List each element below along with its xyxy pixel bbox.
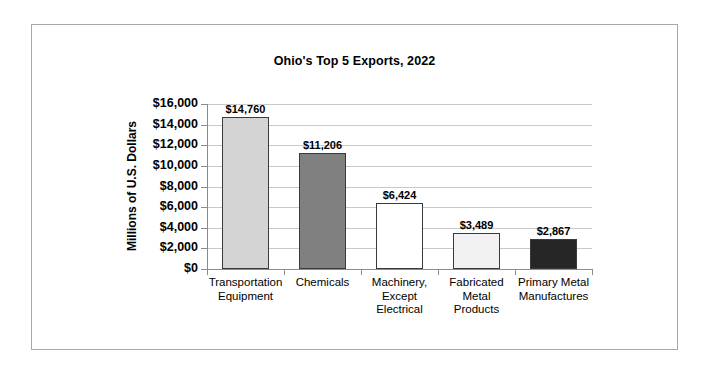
chart-title: Ohio's Top 5 Exports, 2022 (0, 54, 709, 68)
bar (530, 239, 577, 269)
bar (299, 153, 346, 269)
y-axis-tick (201, 207, 207, 208)
category-label-line: Equipment (207, 290, 284, 304)
x-axis-line (207, 269, 593, 270)
category-label-line: Electrical (361, 303, 438, 317)
category-label-line: Machinery, (361, 276, 438, 290)
x-axis-tick (592, 270, 593, 275)
x-axis-tick (207, 270, 208, 275)
bar-value-label: $6,424 (360, 189, 440, 201)
y-axis-tick-label: $0 (140, 261, 198, 275)
y-axis-tick (201, 166, 207, 167)
category-label-line: Manufactures (515, 290, 592, 304)
x-axis-category-label: TransportationEquipment (207, 276, 284, 303)
category-label-line: Fabricated (438, 276, 515, 290)
bar-value-label: $3,489 (437, 219, 517, 231)
category-label-line: Primary Metal (515, 276, 592, 290)
bar (376, 203, 423, 269)
x-axis-tick (361, 270, 362, 275)
y-axis-tick-label: $2,000 (140, 240, 198, 254)
y-axis-tick (201, 187, 207, 188)
bar (453, 233, 500, 269)
y-axis-tick-label: $16,000 (140, 96, 198, 110)
y-axis-line (207, 104, 208, 270)
x-axis-category-label: Chemicals (284, 276, 361, 290)
category-label-line: Metal (438, 290, 515, 304)
y-axis-tick-label: $10,000 (140, 158, 198, 172)
x-axis-tick (284, 270, 285, 275)
x-axis-category-label: FabricatedMetalProducts (438, 276, 515, 317)
y-axis-tick-label: $4,000 (140, 220, 198, 234)
y-axis-tick (201, 228, 207, 229)
y-axis-title: Millions of U.S. Dollars (125, 121, 139, 251)
x-axis-category-label: Machinery,ExceptElectrical (361, 276, 438, 317)
bar-value-label: $11,206 (283, 139, 363, 151)
y-axis-tick-label: $14,000 (140, 117, 198, 131)
chart-figure: Ohio's Top 5 Exports, 2022 Millions of U… (0, 0, 709, 373)
plot-area (207, 104, 592, 269)
x-axis-tick (438, 270, 439, 275)
x-axis-tick (515, 270, 516, 275)
category-label-line: Products (438, 303, 515, 317)
y-axis-tick-label: $12,000 (140, 137, 198, 151)
y-axis-tick (201, 248, 207, 249)
bar (222, 117, 269, 269)
category-label-line: Transportation (207, 276, 284, 290)
y-axis-tick (201, 125, 207, 126)
y-axis-tick-label: $6,000 (140, 199, 198, 213)
x-axis-category-label: Primary MetalManufactures (515, 276, 592, 303)
category-label-line: Except (361, 290, 438, 304)
bar-value-label: $2,867 (514, 225, 594, 237)
y-axis-tick (201, 145, 207, 146)
y-axis-tick-label: $8,000 (140, 179, 198, 193)
category-label-line: Chemicals (284, 276, 361, 290)
bar-value-label: $14,760 (206, 103, 286, 115)
